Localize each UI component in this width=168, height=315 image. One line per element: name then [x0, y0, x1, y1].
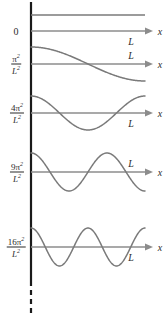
energy-fraction-3: 9π2L2 [10, 161, 24, 184]
energy-denominator-2: L2 [10, 114, 24, 125]
energy-denominator-3: L2 [10, 173, 24, 184]
box-length-label-0: L [128, 36, 134, 47]
x-axis-label-0: x [158, 26, 162, 37]
particle-in-a-box-figure: 0Lxπ2L2Lx4π2L2Lx9π2L2Lx16π2L2Lx [0, 0, 168, 315]
energy-fraction-1: π2L2 [11, 53, 21, 76]
energy-level-label-1: π2L2 [11, 53, 21, 76]
energy-denominator-1: L2 [11, 65, 21, 76]
x-axis-label-2: x [158, 108, 162, 119]
energy-level-label-4: 16π2L2 [7, 236, 26, 259]
x-axis-arrowhead-2 [145, 109, 153, 116]
x-axis-arrowhead-1 [145, 60, 153, 67]
energy-level-label-ground: 0 [14, 26, 19, 37]
x-axis-label-3: x [158, 167, 162, 178]
x-axis-arrowhead-3 [145, 168, 153, 175]
energy-numerator-4: 16π2 [7, 236, 26, 248]
x-axis-label-4: x [158, 242, 162, 253]
x-axis-label-1: x [158, 59, 162, 70]
box-length-label-4: L [128, 252, 134, 263]
box-length-label-2: L [128, 118, 134, 129]
box-length-label-1: L [128, 50, 134, 61]
figure-canvas [0, 0, 168, 315]
box-length-label-3: L [128, 158, 134, 169]
energy-fraction-4: 16π2L2 [7, 236, 26, 259]
energy-fraction-2: 4π2L2 [10, 102, 24, 125]
x-axis-arrowhead-0 [145, 27, 153, 34]
x-axis-arrowhead-4 [145, 243, 153, 250]
energy-level-label-3: 9π2L2 [10, 161, 24, 184]
energy-numerator-3: 9π2 [10, 161, 24, 173]
energy-numerator-2: 4π2 [10, 102, 24, 114]
energy-denominator-4: L2 [7, 248, 26, 259]
energy-numerator-1: π2 [11, 53, 21, 65]
energy-level-label-2: 4π2L2 [10, 102, 24, 125]
